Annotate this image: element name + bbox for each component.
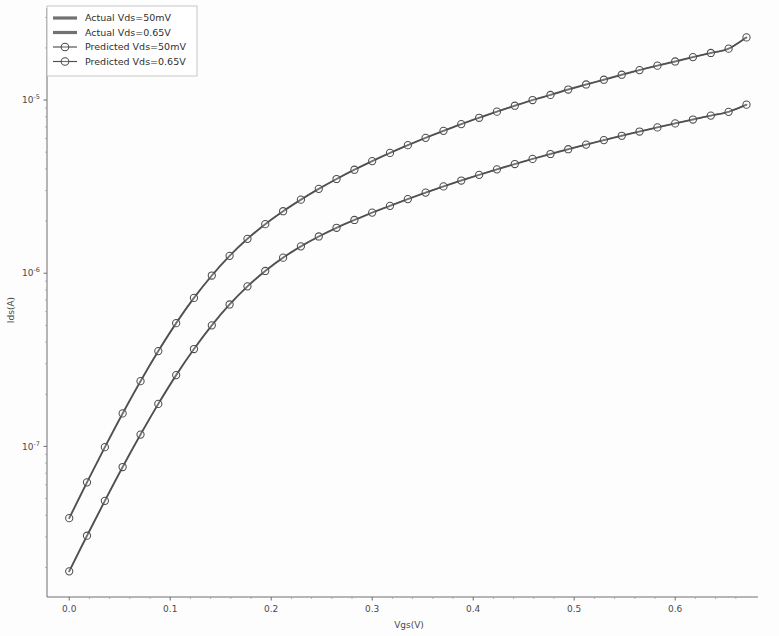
y-tick-label: 10-5	[22, 93, 40, 105]
data-point-marker	[511, 102, 518, 109]
data-point-marker	[297, 243, 304, 250]
data-point-marker	[476, 171, 483, 178]
data-point-marker	[672, 58, 679, 65]
data-point-marker	[262, 221, 269, 228]
data-point-marker	[493, 108, 500, 115]
data-point-marker	[600, 137, 607, 144]
data-point-marker	[654, 62, 661, 69]
x-tick-label: 0.0	[62, 604, 77, 614]
data-series	[66, 34, 750, 522]
data-point-marker	[565, 86, 572, 93]
x-tick-label: 0.2	[264, 604, 278, 614]
data-point-marker	[743, 101, 750, 108]
data-point-marker	[297, 196, 304, 203]
data-point-marker	[244, 283, 251, 290]
data-point-marker	[547, 150, 554, 157]
transfer-characteristic-chart: 0.00.10.20.30.40.50.610-710-610-5 Actual…	[0, 0, 779, 636]
data-point-marker	[422, 134, 429, 141]
data-series	[69, 105, 746, 572]
data-point-marker	[369, 209, 376, 216]
legend-label: Predicted Vds=50mV	[85, 41, 186, 52]
data-point-marker	[493, 166, 500, 173]
data-point-marker	[529, 155, 536, 162]
y-tick-label: 10-7	[22, 440, 40, 452]
legend-marker-icon	[61, 43, 69, 51]
data-point-marker	[226, 301, 233, 308]
legend-label: Actual Vds=50mV	[85, 12, 172, 23]
legend-label: Actual Vds=0.65V	[85, 27, 171, 38]
data-point-marker	[137, 378, 144, 385]
legend-marker-icon	[61, 58, 69, 66]
data-point-marker	[458, 121, 465, 128]
data-point-marker	[66, 515, 73, 522]
data-point-marker	[440, 127, 447, 134]
x-axis-title: Vgs(V)	[394, 620, 424, 630]
data-point-marker	[725, 108, 732, 115]
data-point-marker	[155, 400, 162, 407]
data-point-marker	[315, 233, 322, 240]
data-point-marker	[137, 431, 144, 438]
data-point-marker	[707, 112, 714, 119]
data-point-marker	[119, 410, 126, 417]
data-point-marker	[458, 177, 465, 184]
data-point-marker	[333, 224, 340, 231]
data-point-marker	[440, 183, 447, 190]
legend-label: Predicted Vds=0.65V	[85, 56, 186, 67]
chart-figure: 0.00.10.20.30.40.50.610-710-610-5 Actual…	[0, 0, 779, 636]
data-point-marker	[66, 568, 73, 575]
data-point-marker	[707, 49, 714, 56]
data-point-marker	[351, 216, 358, 223]
data-point-marker	[208, 322, 215, 329]
data-point-marker	[173, 320, 180, 327]
data-point-marker	[262, 267, 269, 274]
x-tick-label: 0.4	[466, 604, 481, 614]
data-point-marker	[83, 532, 90, 539]
data-point-marker	[529, 96, 536, 103]
data-point-marker	[101, 444, 108, 451]
data-point-marker	[280, 254, 287, 261]
data-point-marker	[547, 91, 554, 98]
data-point-marker	[101, 497, 108, 504]
data-point-marker	[636, 128, 643, 135]
data-point-marker	[386, 149, 393, 156]
data-point-marker	[173, 372, 180, 379]
data-point-marker	[725, 45, 732, 52]
data-point-marker	[155, 348, 162, 355]
data-point-marker	[636, 66, 643, 73]
x-tick-label: 0.6	[668, 604, 683, 614]
x-tick-label: 0.5	[567, 604, 581, 614]
data-point-marker	[654, 124, 661, 131]
data-series	[66, 101, 750, 575]
y-tick-label: 10-6	[22, 266, 40, 278]
data-point-marker	[583, 141, 590, 148]
data-point-marker	[333, 175, 340, 182]
data-point-marker	[369, 158, 376, 165]
data-point-marker	[583, 81, 590, 88]
data-point-marker	[351, 166, 358, 173]
data-point-marker	[119, 463, 126, 470]
x-tick-label: 0.1	[163, 604, 177, 614]
data-point-marker	[190, 345, 197, 352]
data-series-layer	[66, 34, 750, 575]
data-point-marker	[689, 54, 696, 61]
data-point-marker	[315, 185, 322, 192]
data-point-marker	[672, 120, 679, 127]
data-point-marker	[476, 114, 483, 121]
axes-layer: 0.00.10.20.30.40.50.610-710-610-5	[22, 8, 758, 614]
data-point-marker	[600, 76, 607, 83]
data-point-marker	[226, 252, 233, 259]
data-series	[69, 37, 746, 518]
data-point-marker	[244, 235, 251, 242]
data-point-marker	[743, 34, 750, 41]
chart-legend: Actual Vds=50mVActual Vds=0.65VPredicted…	[47, 6, 197, 76]
data-point-marker	[618, 132, 625, 139]
x-tick-label: 0.3	[365, 604, 379, 614]
data-point-marker	[83, 479, 90, 486]
data-point-marker	[386, 202, 393, 209]
data-point-marker	[280, 208, 287, 215]
data-point-marker	[404, 142, 411, 149]
data-point-marker	[404, 195, 411, 202]
y-axis-title: Ids(A)	[6, 297, 16, 323]
axis-labels-layer: Vgs(V) Ids(A)	[6, 297, 424, 630]
data-point-marker	[190, 294, 197, 301]
